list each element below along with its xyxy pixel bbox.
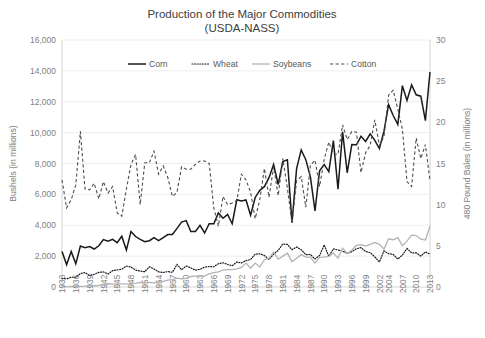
- production-line-chart: Production of the Major Commodities(USDA…: [0, 0, 485, 338]
- series-line-cotton: [62, 90, 430, 226]
- x-axis-tick-26: 2010: [412, 274, 421, 293]
- chart-subtitle: (USDA-NASS): [205, 22, 280, 34]
- y2-axis-tick-5: 25: [436, 76, 446, 86]
- x-axis-tick-23: 2002: [376, 274, 385, 293]
- x-axis-tick-2: 1939: [86, 274, 95, 293]
- chart-title: Production of the Major Commodities: [147, 8, 336, 20]
- y-axis-tick-5: 10,000: [30, 128, 56, 138]
- x-axis-tick-14: 1975: [251, 274, 260, 293]
- y2-axis-tick-2: 10: [436, 200, 446, 210]
- chart-container: Production of the Major Commodities(USDA…: [0, 0, 485, 338]
- x-axis-tick-24: 2004: [385, 274, 394, 293]
- x-axis-tick-17: 1984: [293, 274, 302, 293]
- x-axis-tick-19: 1990: [320, 274, 329, 293]
- y-axis-tick-6: 12,000: [30, 97, 56, 107]
- series-line-wheat: [62, 244, 430, 279]
- y-axis-tick-3: 6,000: [35, 189, 57, 199]
- x-axis-tick-25: 2007: [399, 274, 408, 293]
- y2-axis-title: 480 Pound Bales (in millions): [462, 108, 472, 219]
- x-axis-tick-18: 1987: [307, 274, 316, 293]
- x-axis-tick-16: 1981: [279, 274, 288, 293]
- x-axis-tick-13: 1972: [238, 274, 247, 293]
- legend-label-wheat: Wheat: [213, 59, 238, 69]
- x-axis-tick-10: 1963: [196, 274, 205, 293]
- y-axis-tick-4: 8,000: [35, 159, 57, 169]
- x-axis-tick-20: 1993: [334, 274, 343, 293]
- y-axis-tick-7: 14,000: [30, 66, 56, 76]
- x-axis-tick-6: 1951: [141, 274, 150, 293]
- x-axis-tick-22: 1999: [362, 274, 371, 293]
- x-axis-tick-15: 1978: [265, 274, 274, 293]
- x-axis-tick-11: 1966: [210, 274, 219, 293]
- x-axis-tick-12: 1969: [224, 274, 233, 293]
- y2-axis-tick-3: 15: [436, 159, 446, 169]
- y-axis-tick-0: 0: [51, 282, 56, 292]
- y-axis-tick-8: 16,000: [30, 35, 56, 45]
- x-axis-tick-8: 1957: [169, 274, 178, 293]
- series-line-corn: [62, 72, 430, 265]
- y2-axis-tick-1: 5: [436, 241, 441, 251]
- y2-axis-tick-4: 20: [436, 117, 446, 127]
- x-axis-tick-0: 1933: [58, 274, 67, 293]
- legend-label-cotton: Cotton: [351, 59, 377, 69]
- legend-label-soybeans: Soybeans: [273, 59, 311, 69]
- y2-axis-tick-0: 0: [436, 282, 441, 292]
- x-axis-tick-21: 1996: [348, 274, 357, 293]
- y-axis-tick-2: 4,000: [35, 220, 57, 230]
- x-axis-tick-7: 1954: [155, 274, 164, 293]
- y2-axis-tick-6: 30: [436, 35, 446, 45]
- y-axis-tick-1: 2,000: [35, 251, 57, 261]
- y-axis-title: Bushels (in millions): [8, 125, 18, 202]
- legend-label-corn: Corn: [149, 59, 168, 69]
- x-axis-tick-27: 2013: [426, 274, 435, 293]
